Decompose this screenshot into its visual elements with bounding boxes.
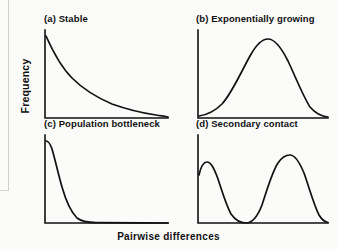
figure-container: Frequency (a) Stable (b) Exponentially g… bbox=[0, 0, 337, 249]
panel-b-svg bbox=[196, 28, 330, 123]
panel-d: (d) Secondary contact bbox=[196, 118, 334, 218]
scan-edge-artifact-bottom bbox=[0, 190, 9, 191]
panel-a-axes bbox=[45, 30, 168, 118]
panel-c-curve bbox=[46, 141, 168, 223]
panel-b: (b) Exponentially growing bbox=[196, 13, 334, 113]
panel-a-title: (a) Stable bbox=[44, 13, 88, 24]
panel-a: (a) Stable bbox=[44, 13, 174, 113]
panel-d-curve bbox=[199, 155, 328, 223]
panel-a-curve bbox=[46, 36, 168, 117]
x-axis-label: Pairwise differences bbox=[0, 231, 337, 242]
panel-b-curve bbox=[199, 39, 328, 117]
panel-d-plot bbox=[196, 133, 330, 228]
panel-c-axes bbox=[45, 135, 168, 223]
scan-edge-artifact bbox=[8, 0, 9, 191]
panel-d-title: (d) Secondary contact bbox=[196, 118, 298, 129]
panel-a-plot bbox=[44, 28, 170, 123]
panel-c-plot bbox=[44, 133, 170, 228]
panel-c: (c) Population bottleneck bbox=[44, 118, 174, 218]
panel-b-plot bbox=[196, 28, 330, 123]
panel-d-svg bbox=[196, 133, 330, 228]
panel-a-svg bbox=[44, 28, 170, 123]
panel-c-title: (c) Population bottleneck bbox=[44, 118, 160, 129]
panel-b-title: (b) Exponentially growing bbox=[196, 13, 315, 24]
panel-c-svg bbox=[44, 133, 170, 228]
y-axis-label: Frequency bbox=[19, 41, 31, 131]
